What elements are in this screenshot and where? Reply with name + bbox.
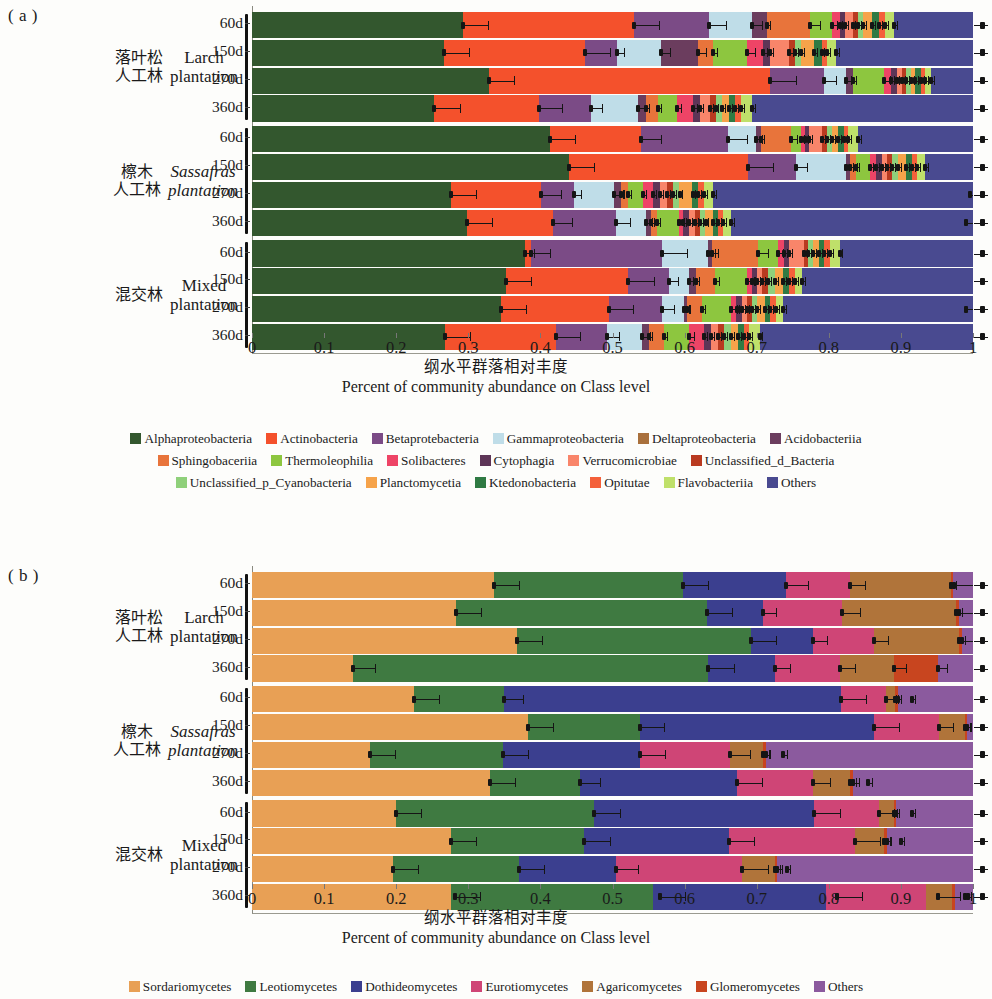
bar-segment (836, 40, 973, 66)
bar-segment (925, 154, 973, 180)
row-tick-360d-7: 360d (196, 212, 250, 230)
legend-item[interactable]: Dothideomycetes (351, 980, 457, 993)
error-bar-marker (720, 105, 724, 112)
error-bar-marker (722, 333, 726, 340)
row-tick-60d-0: 60d (196, 14, 250, 32)
error-bar-cap (665, 750, 666, 759)
error-bar-marker (721, 219, 725, 226)
error-bar-terminal-line (974, 167, 988, 168)
error-bar-marker (449, 191, 453, 198)
error-bar-marker (915, 164, 919, 171)
error-bar-cap (624, 190, 625, 199)
error-bar-cap (875, 21, 876, 30)
legend-item[interactable]: Eurotiomycetes (471, 980, 568, 993)
legend-item[interactable]: Sordariomycetes (129, 980, 232, 993)
legend-label: Sphingobaceriia (172, 454, 258, 467)
legend-item[interactable]: Opitutae (590, 476, 649, 489)
error-bar-cap (708, 218, 709, 227)
error-bar-cap (670, 48, 671, 57)
error-bar-cap (678, 277, 679, 286)
legend-item[interactable]: Acidobacteriia (770, 432, 862, 445)
error-bar-cap (928, 163, 929, 172)
legend-item[interactable]: Flavobacteriia (664, 476, 753, 489)
legend-item[interactable]: Solibacteres (387, 454, 465, 467)
error-bar-cap (550, 249, 551, 258)
group-label-cn: 落叶松人工林 (115, 609, 163, 645)
bar-segment (252, 655, 353, 681)
bar-segment (712, 240, 758, 266)
error-bar-marker (548, 136, 552, 143)
bar-segment (752, 95, 973, 121)
error-bar-marker (742, 333, 746, 340)
legend-item[interactable]: Gammaproteobacteria (493, 432, 624, 445)
error-bar-cap (880, 837, 881, 846)
x-axis-title-en: Percent of community abundance on Class … (0, 377, 992, 397)
error-bar-terminal-line (974, 869, 988, 870)
error-bar (489, 81, 514, 82)
legend-item[interactable]: Planctomycetia (366, 476, 461, 489)
legend-item[interactable]: Cytophagia (480, 454, 555, 467)
legend-item[interactable]: Glomeromycetes (696, 980, 800, 993)
error-bar-marker (708, 105, 712, 112)
bar-row (252, 770, 973, 796)
error-bar-marker (662, 333, 666, 340)
error-bar-marker (825, 136, 829, 143)
legend-item[interactable]: Unclassified_d_Bacteria (691, 454, 835, 467)
legend-item[interactable]: Alphaproteobacteria (130, 432, 252, 445)
error-bar-marker (727, 105, 731, 112)
error-bar-marker (825, 49, 829, 56)
error-bar-terminal-line (974, 254, 988, 255)
legend-item[interactable]: Unclassified_p_Cyanobacteria (176, 476, 352, 489)
error-bar (813, 783, 830, 784)
legend-item[interactable]: Actinobacteria (266, 432, 358, 445)
error-bar-cap (820, 21, 821, 30)
error-bar-marker (802, 250, 806, 257)
error-bar-marker (811, 779, 815, 786)
error-bar-cap (769, 750, 770, 759)
error-bar (742, 869, 767, 870)
error-bar-marker (687, 219, 691, 226)
error-bar-marker (726, 136, 730, 143)
bar-row (252, 95, 973, 121)
error-bar-cap (719, 277, 720, 286)
error-bar-marker (968, 191, 972, 198)
error-bar-cap (726, 21, 727, 30)
error-bar-marker (691, 105, 695, 112)
error-bar (709, 25, 725, 26)
error-bar (467, 223, 492, 224)
legend-item[interactable]: Others (767, 476, 816, 489)
legend-item[interactable]: Verrucomicrobiae (568, 454, 676, 467)
error-bar (444, 53, 469, 54)
legend-item[interactable]: Betaprotebacteria (372, 432, 479, 445)
row-tick-60d-0: 60d (196, 574, 250, 592)
legend-item[interactable]: Deltaproteobacteria (638, 432, 756, 445)
bar-segment (767, 12, 810, 38)
bar-segment (702, 296, 731, 322)
legend-item[interactable]: Ktedonobacteria (475, 476, 576, 489)
legend-item[interactable]: Thermoleophilia (271, 454, 373, 467)
error-bar (730, 755, 750, 756)
legend-item[interactable]: Others (814, 980, 863, 993)
error-bar-marker (889, 77, 893, 84)
bar-row (252, 240, 973, 266)
error-bar-marker (766, 278, 770, 285)
error-bar-marker (754, 136, 758, 143)
error-bar (707, 613, 732, 614)
error-bar-cap (581, 190, 582, 199)
bar-segment (713, 182, 970, 208)
error-bar-cap (960, 892, 961, 901)
error-bar-cap (654, 277, 655, 286)
error-bar-marker (735, 306, 739, 313)
error-bar (751, 641, 776, 642)
legend-item[interactable]: Agaricomycetes (582, 980, 682, 993)
error-bar-marker (848, 582, 852, 589)
error-bar-cap (620, 809, 621, 818)
legend-swatch (475, 477, 486, 488)
error-bar-marker (729, 219, 733, 226)
error-bar-marker (592, 810, 596, 817)
legend-item[interactable]: Sphingobaceriia (158, 454, 258, 467)
legend-item[interactable]: Leotiomycetes (245, 980, 337, 993)
error-bar-marker (727, 838, 731, 845)
error-bar-marker (870, 22, 874, 29)
error-bar-marker (368, 751, 372, 758)
